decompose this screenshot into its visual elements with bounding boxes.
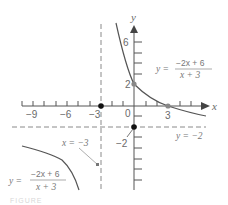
svg-text:−2x + 6: −2x + 6 (31, 169, 60, 179)
point-y-intercept (131, 81, 136, 86)
y-tick-label: 6 (123, 37, 129, 48)
x-tick-label: −9 (26, 109, 38, 120)
horizontal-asymptote-label: y = −2 (175, 131, 203, 141)
svg-text:y =: y = (8, 176, 22, 186)
x-tick-label: 0 (125, 108, 131, 119)
x-tick-label: −6 (60, 109, 72, 120)
svg-text:x + 3: x + 3 (35, 182, 56, 192)
point-x-intercept (165, 103, 170, 108)
x-axis-arrow-icon (201, 102, 210, 110)
vasym-pointer (79, 148, 98, 165)
y-tick-label: −2 (116, 138, 128, 149)
x-tick-label: −3 (89, 109, 101, 120)
equation-lower-left: y = −2x + 6 x + 3 (8, 169, 66, 192)
y-tick-label: 2 (125, 79, 131, 90)
x-axis-label: x (211, 100, 217, 112)
point-hasym-on-axis (131, 124, 137, 130)
x-tick-label: 3 (165, 110, 171, 121)
equation-upper-right: y = −2x + 6 x + 3 (155, 58, 212, 80)
point-vasym-on-axis (98, 103, 104, 109)
svg-text:−2x + 6: −2x + 6 (176, 58, 205, 68)
y-axis-arrow-icon (130, 25, 138, 33)
x-axis (22, 101, 210, 110)
svg-text:x + 3: x + 3 (179, 70, 200, 80)
rational-function-graph: −9 −6 −3 0 3 6 2 −2 y x y = −2x + 6 x + … (0, 0, 228, 205)
svg-text:y =: y = (155, 64, 169, 74)
figure-caption: FIGURE (10, 197, 42, 204)
vertical-asymptote-label: x = −3 (61, 138, 89, 148)
y-axis (130, 25, 142, 190)
hasym-pointer (127, 129, 133, 137)
y-axis-label: y (130, 11, 136, 23)
